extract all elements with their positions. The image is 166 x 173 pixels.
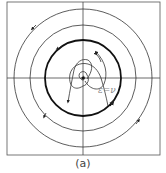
fixed-point	[81, 76, 84, 79]
parameter-label: ε=ν	[98, 85, 116, 95]
arrow-icon	[44, 113, 46, 117]
phase-portrait	[0, 0, 166, 173]
figure-caption: (a)	[0, 157, 166, 170]
